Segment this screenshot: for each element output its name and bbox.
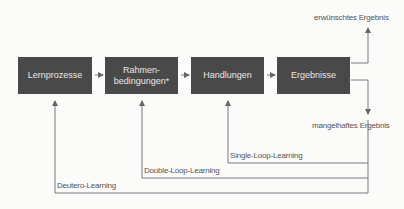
node-rahmenbedingungen: Rahmen- bedingungen* — [105, 57, 178, 94]
label-deficient-outcome: mangelhaftes Ergebnis — [312, 121, 390, 130]
node-ergebnisse: Ergebnisse — [277, 57, 350, 94]
node-handlungen: Handlungen — [191, 57, 264, 94]
label-single-loop: Single-Loop-Learning — [230, 151, 303, 160]
label-double-loop: Double-Loop-Learning — [144, 166, 220, 175]
label-deutero: Deutero-Learning — [57, 181, 116, 190]
connector-lines — [0, 0, 404, 209]
label-desired-outcome: erwünschtes Ergebnis — [314, 13, 389, 22]
node-lernprozesse: Lernprozesse — [18, 57, 92, 94]
